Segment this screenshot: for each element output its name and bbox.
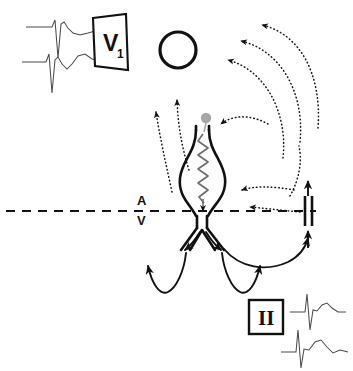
ventricle-label: V <box>137 213 146 228</box>
lead-two-label: II <box>258 306 274 330</box>
lead-v1-subscript: 1 <box>117 47 124 61</box>
atrium-label: A <box>137 193 147 208</box>
figure-canvas: V 1 <box>0 0 353 371</box>
earliest-activation-marker-icon <box>201 113 211 123</box>
atrium-circle <box>160 32 196 68</box>
ecg-mechanism-figure: V 1 <box>0 0 353 371</box>
